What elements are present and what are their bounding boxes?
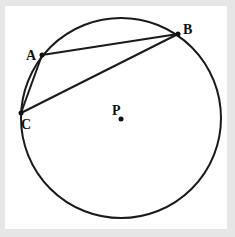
point-b-dot — [176, 32, 181, 37]
geometry-diagram: A B C P — [0, 0, 235, 237]
label-c: C — [21, 117, 31, 132]
label-a: A — [26, 48, 37, 63]
label-b: B — [183, 22, 192, 37]
point-a-dot — [40, 53, 45, 58]
label-p: P — [112, 103, 121, 118]
point-c-dot — [19, 111, 24, 116]
